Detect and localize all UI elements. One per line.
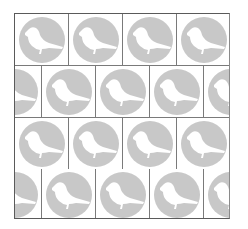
pattern-tile bbox=[15, 14, 69, 66]
bird-in-circle-icon bbox=[18, 120, 66, 168]
pattern-tile bbox=[204, 169, 230, 219]
pattern-tile bbox=[42, 169, 96, 219]
pattern-tile bbox=[177, 14, 230, 66]
bird-in-circle-icon bbox=[72, 120, 120, 168]
pattern-tile bbox=[123, 118, 177, 170]
pattern-tile bbox=[123, 14, 177, 66]
bird-in-circle-icon bbox=[180, 120, 228, 168]
pattern-row-3 bbox=[15, 118, 230, 170]
pattern-tile bbox=[96, 66, 150, 118]
bird-in-circle-icon bbox=[72, 16, 120, 64]
bird-in-circle-icon bbox=[99, 68, 147, 116]
bird-in-circle-icon bbox=[207, 171, 230, 219]
bird-in-circle-icon bbox=[126, 16, 174, 64]
pattern-tile bbox=[69, 14, 123, 66]
pattern-row-4 bbox=[15, 169, 230, 219]
pattern-tile bbox=[15, 118, 69, 170]
bird-in-circle-icon bbox=[153, 68, 201, 116]
bird-in-circle-icon bbox=[153, 171, 201, 219]
pattern-row-1 bbox=[15, 14, 230, 66]
bird-in-circle-icon bbox=[207, 68, 230, 116]
bird-pattern-frame bbox=[14, 13, 230, 219]
pattern-row-2 bbox=[15, 66, 230, 118]
pattern-tile bbox=[150, 169, 204, 219]
pattern-tile bbox=[150, 66, 204, 118]
bird-in-circle-icon bbox=[18, 16, 66, 64]
bird-in-circle-icon bbox=[45, 171, 93, 219]
bird-in-circle-icon bbox=[99, 171, 147, 219]
bird-in-circle-icon bbox=[14, 68, 39, 116]
pattern-tile bbox=[204, 66, 230, 118]
pattern-tile bbox=[96, 169, 150, 219]
pattern-tile bbox=[14, 66, 42, 118]
bird-in-circle-icon bbox=[45, 68, 93, 116]
bird-in-circle-icon bbox=[126, 120, 174, 168]
bird-in-circle-icon bbox=[14, 171, 39, 219]
pattern-tile bbox=[42, 66, 96, 118]
bird-in-circle-icon bbox=[180, 16, 228, 64]
pattern-tile bbox=[177, 118, 230, 170]
pattern-tile bbox=[69, 118, 123, 170]
pattern-tile bbox=[14, 169, 42, 219]
